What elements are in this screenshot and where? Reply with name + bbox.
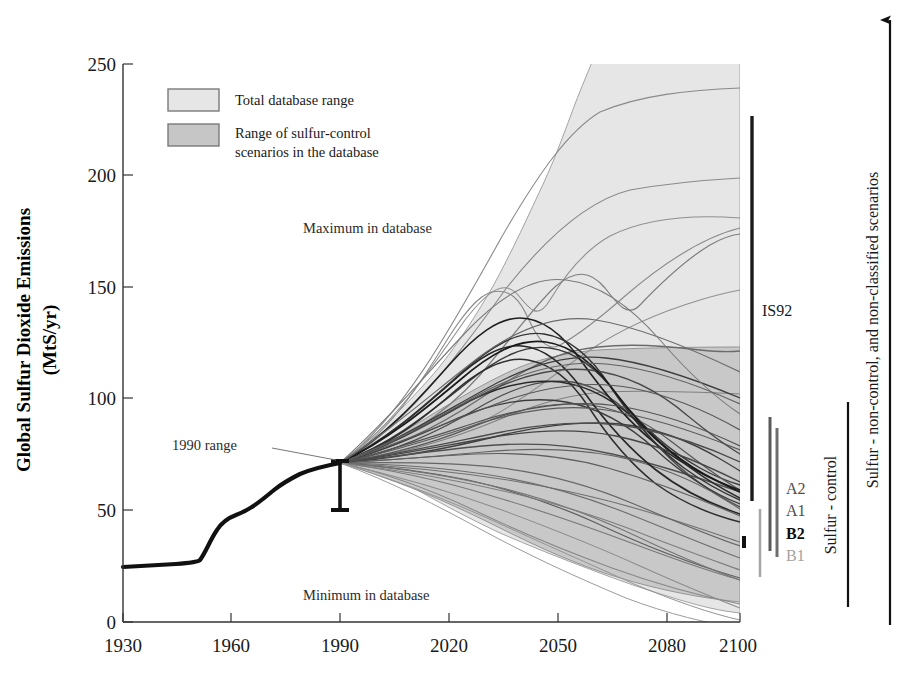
side-bracket-label-sulfur-control: Sulfur - control — [822, 455, 839, 554]
legend-label-sulfur-control-range-line2: scenarios in the database — [235, 144, 379, 160]
y-tick-label-200: 200 — [88, 165, 117, 186]
figure-container: 1990 range 250 200 150 100 50 0 — [0, 0, 911, 674]
y-tick-label-100: 100 — [88, 388, 117, 409]
range-marker-label-a1: A1 — [786, 502, 806, 519]
x-tick-label-1930: 1930 — [104, 635, 142, 656]
y-tick-label-250: 250 — [88, 54, 117, 75]
x-tick-label-2020: 2020 — [430, 635, 468, 656]
range-marker-label-b1: B1 — [786, 547, 805, 564]
range-marker-label-b2: B2 — [786, 525, 805, 542]
y-axis-title-line1: Global Sulfur Dioxide Emissions — [13, 208, 34, 472]
side-bracket-sulfur-non-control: Sulfur - non-control, and non-classified… — [864, 20, 890, 625]
annotation-1990-range: 1990 range — [172, 437, 237, 453]
x-tick-label-1960: 1960 — [212, 635, 250, 656]
y-tick-label-150: 150 — [88, 277, 117, 298]
y-tick-label-0: 0 — [107, 612, 117, 633]
range-markers-group: IS92 A2 A1 B2 B1 — [744, 116, 806, 577]
side-bracket-label-sulfur-non-control: Sulfur - non-control, and non-classified… — [864, 172, 881, 488]
legend-label-sulfur-control-range-line1: Range of sulfur-control — [235, 125, 371, 141]
legend-swatch-sulfur-control-range — [168, 124, 219, 146]
x-tick-label-2080: 2080 — [648, 635, 686, 656]
range-marker-label-is92: IS92 — [762, 302, 792, 319]
y-axis-title-line2: (MtS/yr) — [39, 305, 61, 376]
side-bracket-sulfur-control: Sulfur - control — [822, 402, 848, 607]
annotation-minimum-in-database: Minimum in database — [303, 587, 429, 603]
x-tick-label-2100: 2100 — [719, 635, 757, 656]
x-tick-label-2050: 2050 — [539, 635, 577, 656]
legend-label-total-database-range: Total database range — [235, 92, 354, 108]
y-tick-label-50: 50 — [97, 500, 116, 521]
x-tick-label-1990: 1990 — [321, 635, 359, 656]
legend-swatch-total-database-range — [168, 89, 219, 111]
annotation-maximum-in-database: Maximum in database — [303, 220, 432, 236]
range-marker-label-a2: A2 — [786, 480, 806, 497]
sulfur-emissions-chart: 1990 range 250 200 150 100 50 0 — [0, 0, 911, 674]
